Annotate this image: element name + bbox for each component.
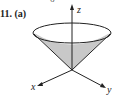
x-axis-arrow-icon xyxy=(37,82,43,86)
x-axis-label: x xyxy=(30,81,36,92)
z-axis-arrow-icon xyxy=(70,4,74,10)
z-axis-label: z xyxy=(76,4,81,15)
x-axis xyxy=(39,70,72,85)
cone-figure: z x y xyxy=(0,0,122,99)
y-axis-label: y xyxy=(106,84,112,95)
y-axis xyxy=(72,70,104,87)
y-axis-arrow-icon xyxy=(100,83,106,88)
